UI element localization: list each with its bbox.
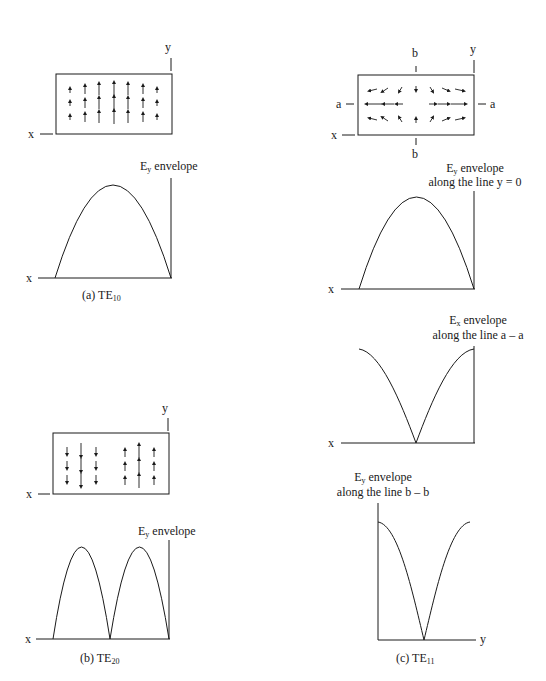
te20-box-x-axis-label: x — [26, 487, 32, 501]
te11-ex-envelope-aa-graph — [341, 346, 475, 443]
te11-graph3-ylabel: Ey envelope — [330, 470, 436, 484]
te11-box-x-axis-label: x — [331, 128, 337, 142]
te11-graph2-ylabel: Ex envelope — [420, 313, 536, 327]
te11-line-a-right-label: a — [490, 97, 495, 111]
te11-ey-envelope-bb-graph — [378, 503, 476, 640]
te11-line-b-top-label: b — [412, 46, 418, 60]
te20-caption: (b) TE20 — [80, 651, 119, 665]
te11-graph1-ylabel: Ey envelope — [420, 161, 530, 175]
te11-waveguide-cross-section — [342, 60, 486, 145]
te20-waveguide-cross-section — [38, 418, 169, 494]
te20-graph-ylabel: Ey envelope — [138, 524, 196, 538]
te20-ey-envelope-graph — [36, 540, 170, 639]
te11-box-y-axis-label: y — [470, 42, 476, 56]
te11-field-arrows — [366, 86, 466, 123]
te11-caption: (c) TE11 — [396, 651, 434, 665]
te10-box-x-axis-label: x — [28, 127, 34, 141]
te11-graph1-x-axis-label: x — [328, 282, 334, 296]
te20-field-arrows — [67, 443, 154, 488]
te11-graph1-ylabel-line2: along the line y = 0 — [420, 175, 530, 189]
te11-line-a-left-label: a — [336, 97, 341, 111]
te10-waveguide-cross-section — [40, 58, 172, 134]
te11-ey-envelope-y0-graph — [341, 191, 475, 289]
te11-graph2-x-axis-label: x — [328, 436, 334, 450]
te10-caption: (a) TE10 — [82, 288, 121, 302]
te10-graph-x-axis-label: x — [26, 271, 32, 285]
te10-ey-envelope-graph — [38, 178, 172, 278]
te11-graph3-y-axis-label: y — [480, 632, 486, 646]
te10-box-y-axis-label: y — [165, 40, 171, 54]
te11-graph2-ylabel-line2: along the line a – a — [420, 328, 536, 342]
te10-field-arrows — [70, 82, 157, 124]
te11-line-b-bottom-label: b — [412, 147, 418, 161]
te10-graph-ylabel: Ey envelope — [140, 159, 198, 173]
te20-graph-x-axis-label: x — [25, 632, 31, 646]
te11-graph3-ylabel-line2: along the line b – b — [330, 485, 436, 499]
te20-box-y-axis-label: y — [162, 401, 168, 415]
